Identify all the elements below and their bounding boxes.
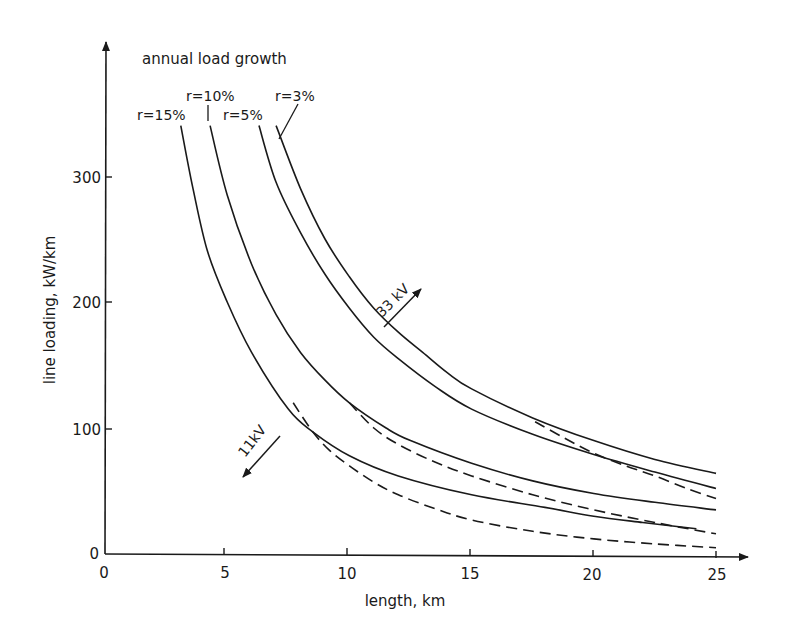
solid-curve-1 xyxy=(210,126,716,510)
x-axis xyxy=(105,554,748,557)
line-loading-chart: 300 200 100 0 0 5 10 15 20 25 length, km… xyxy=(0,0,785,634)
x-tick-5: 5 xyxy=(220,564,230,582)
x-tick-25: 25 xyxy=(707,566,726,584)
x-tick-0: 0 xyxy=(99,564,109,582)
y-tick-100: 100 xyxy=(72,421,101,439)
y-tick-0: 0 xyxy=(89,545,99,563)
x-tick-labels: 0 5 10 15 20 25 xyxy=(99,564,726,584)
axes xyxy=(105,42,748,558)
x-tick-10: 10 xyxy=(337,565,356,583)
curves xyxy=(181,126,716,548)
y-axis xyxy=(105,42,106,554)
leader-r3 xyxy=(279,104,298,139)
y-tick-200: 200 xyxy=(72,294,101,312)
x-tick-15: 15 xyxy=(460,565,479,583)
x-axis-label: length, km xyxy=(365,592,446,610)
x-tick-20: 20 xyxy=(582,566,601,584)
label-r5: r=5% xyxy=(223,107,263,123)
annotation-33kv: 33 kV xyxy=(373,280,421,327)
solid-curve-2 xyxy=(259,126,716,489)
y-tick-300: 300 xyxy=(72,169,101,187)
y-tick-labels: 300 200 100 0 xyxy=(72,169,101,563)
dashed-curve-5 xyxy=(349,403,716,534)
chart-title: annual load growth xyxy=(142,50,287,68)
label-r15: r=15% xyxy=(137,107,186,123)
label-r3: r=3% xyxy=(275,88,315,104)
y-axis-label: line loading, kW/km xyxy=(41,236,59,385)
solid-curve-0 xyxy=(181,126,697,529)
annotation-11kv: 11kV xyxy=(235,422,280,477)
label-33kv: 33 kV xyxy=(373,280,413,320)
label-r10: r=10% xyxy=(186,88,235,104)
